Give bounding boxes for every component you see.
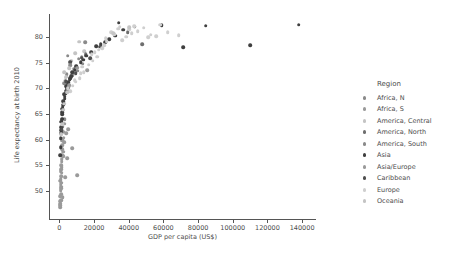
x-tick-label: 120000: [255, 224, 280, 232]
scatter-chart-figure: GDP per capita (US$) Life expectancy at …: [0, 0, 461, 262]
legend-item-label: Europe: [377, 186, 400, 194]
scatter-point: [121, 28, 125, 32]
legend-item-label: Caribbean: [377, 174, 410, 182]
scatter-point: [147, 35, 151, 39]
scatter-point: [64, 132, 68, 136]
scatter-point: [166, 30, 170, 34]
scatter-point: [76, 66, 80, 70]
legend-item-label: Asia: [377, 151, 391, 159]
scatter-point: [91, 59, 95, 63]
legend-item[interactable]: America, South: [352, 138, 432, 150]
scatter-point: [100, 47, 104, 51]
scatter-point: [136, 29, 140, 33]
legend-item[interactable]: America, North: [352, 127, 432, 139]
scatter-point: [66, 87, 70, 91]
x-tick-mark: [233, 220, 234, 223]
x-tick-label: 40000: [118, 224, 139, 232]
legend-item[interactable]: America, Central: [352, 115, 432, 127]
scatter-point: [80, 65, 84, 69]
scatter-point: [204, 24, 208, 28]
scatter-point: [59, 194, 63, 198]
scatter-point: [60, 128, 64, 132]
scatter-point: [297, 23, 301, 27]
x-tick-mark: [302, 220, 303, 223]
legend-swatch-container: [352, 130, 377, 134]
legend-marker-icon: [363, 130, 367, 134]
scatter-point: [104, 36, 108, 40]
scatter-point: [61, 108, 65, 112]
legend-marker-icon: [363, 107, 367, 111]
scatter-point: [154, 34, 158, 38]
legend-marker-icon: [363, 188, 367, 192]
legend-marker-icon: [363, 153, 367, 157]
scatter-point: [66, 156, 70, 160]
y-axis-label: Life expectancy at birth 2010: [13, 12, 25, 218]
x-tick-label: 100000: [220, 224, 245, 232]
scatter-point: [69, 74, 73, 78]
scatter-point: [120, 38, 124, 42]
scatter-point: [59, 179, 63, 183]
scatter-point: [60, 133, 64, 137]
plot-area: [49, 14, 315, 219]
y-tick-mark: [46, 140, 49, 141]
legend-item[interactable]: Africa, N: [352, 92, 432, 104]
x-tick-mark: [129, 220, 130, 223]
y-tick-label: 75: [35, 59, 43, 67]
scatter-point: [103, 43, 107, 47]
legend-marker-icon: [363, 165, 367, 169]
legend-title: Region: [377, 80, 432, 88]
scatter-point: [64, 75, 68, 79]
x-tick-label: 20000: [84, 224, 105, 232]
legend-swatch-container: [352, 176, 377, 180]
scatter-point: [82, 70, 86, 74]
scatter-point: [83, 40, 87, 44]
scatter-point: [64, 176, 68, 180]
scatter-point: [59, 174, 63, 178]
scatter-point: [75, 174, 79, 178]
y-tick-mark: [46, 114, 49, 115]
scatter-point: [63, 102, 67, 106]
scatter-point: [86, 69, 90, 73]
legend-item[interactable]: Oceania: [352, 196, 432, 208]
legend-entries: Africa, NAfrica, SAmerica, CentralAmeric…: [352, 92, 432, 207]
legend-item[interactable]: Europe: [352, 184, 432, 196]
scatter-point: [66, 91, 70, 95]
y-tick-label: 70: [35, 84, 43, 92]
scatter-point: [59, 136, 63, 140]
legend-item-label: Africa, S: [377, 105, 404, 113]
legend-marker-icon: [363, 119, 367, 123]
x-tick-mark: [94, 220, 95, 223]
scatter-point: [118, 25, 122, 29]
legend-swatch-container: [352, 153, 377, 157]
legend-swatch-container: [352, 199, 377, 203]
legend-swatch-container: [352, 96, 377, 100]
legend-item[interactable]: Caribbean: [352, 173, 432, 185]
scatter-point: [130, 31, 134, 35]
scatter-point: [124, 35, 128, 39]
scatter-point: [97, 48, 101, 52]
scatter-point: [132, 25, 136, 29]
x-tick-mark: [163, 220, 164, 223]
scatter-point: [60, 118, 64, 122]
legend-swatch-container: [352, 188, 377, 192]
x-tick-mark: [59, 220, 60, 223]
y-tick-label: 55: [35, 161, 43, 169]
scatter-point: [140, 42, 144, 46]
legend-swatch-container: [352, 165, 377, 169]
y-tick-mark: [46, 63, 49, 64]
scatter-point: [90, 53, 94, 57]
scatter-point: [182, 46, 186, 50]
scatter-point: [105, 39, 109, 43]
scatter-point: [74, 71, 78, 75]
scatter-point: [78, 76, 82, 80]
scatter-point: [60, 165, 64, 169]
legend-item[interactable]: Asia/Europe: [352, 161, 432, 173]
scatter-point: [248, 43, 252, 47]
legend-item-label: Asia/Europe: [377, 163, 416, 171]
scatter-point: [87, 63, 91, 67]
scatter-point: [59, 153, 63, 157]
scatter-point: [127, 26, 131, 30]
scatter-point: [58, 199, 62, 203]
legend-item[interactable]: Africa, S: [352, 104, 432, 116]
legend-item[interactable]: Asia: [352, 150, 432, 162]
